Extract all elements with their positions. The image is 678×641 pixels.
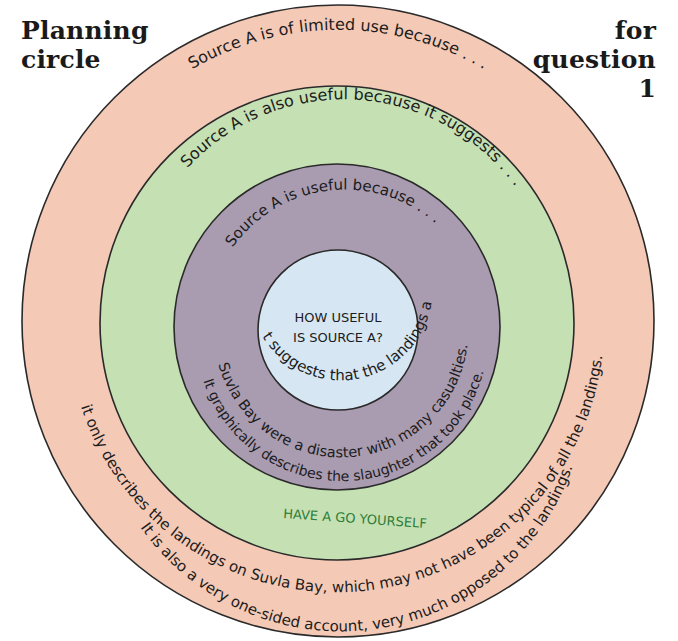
center-question-line1: HOW USEFUL [294, 310, 382, 325]
center-question-line2: IS SOURCE A? [293, 330, 383, 345]
planning-circle-diagram: Source A is of limited use because . . .… [0, 0, 678, 641]
